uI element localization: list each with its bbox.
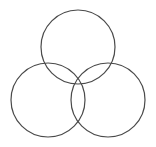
figure-canvas: [0, 0, 156, 147]
three-circles-diagram: [0, 0, 156, 147]
background-rect: [0, 0, 156, 147]
